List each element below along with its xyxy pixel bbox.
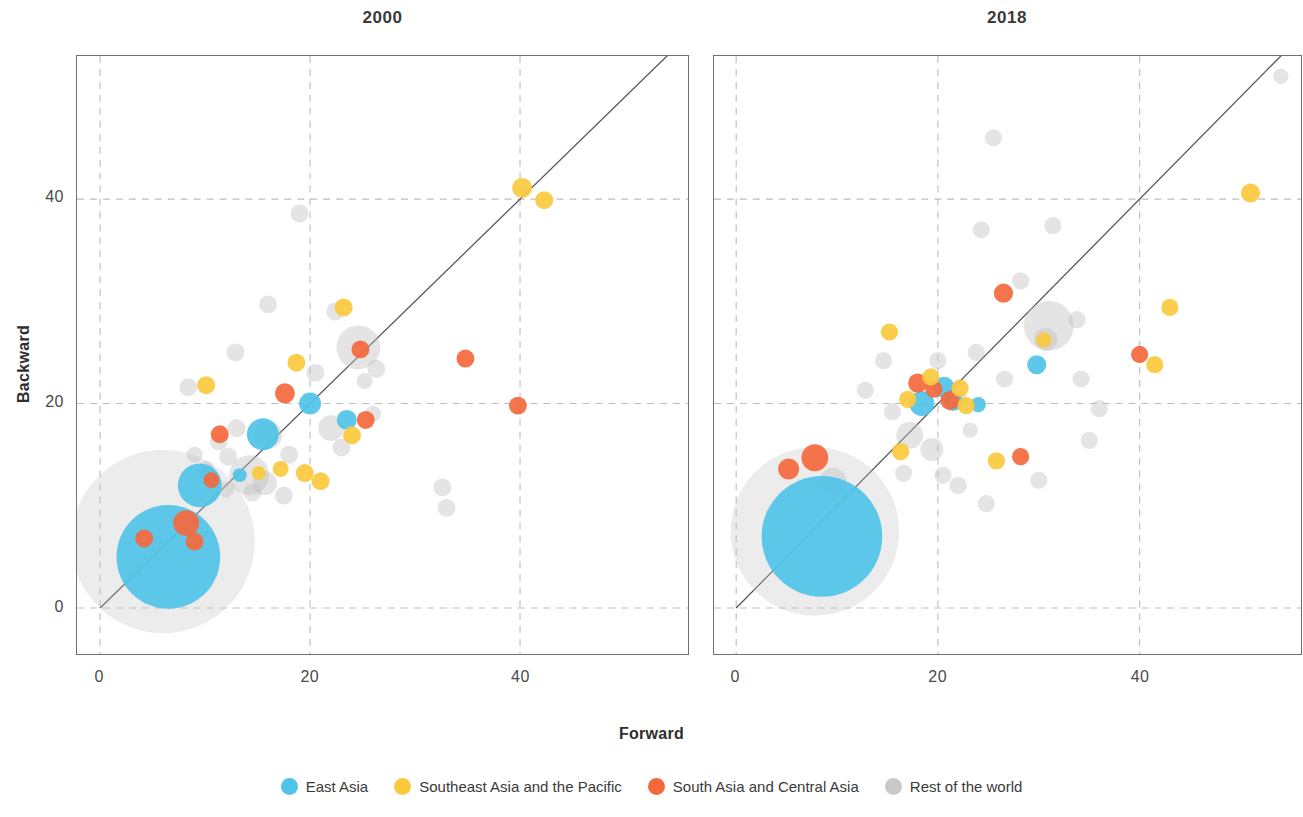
data-point[interactable] [978,495,995,512]
legend-label: East Asia [306,778,369,795]
data-point[interactable] [778,458,799,479]
data-point[interactable] [857,382,874,399]
legend-item[interactable]: South Asia and Central Asia [648,778,859,795]
data-point[interactable] [306,364,324,382]
data-point[interactable] [1027,355,1046,374]
legend-item[interactable]: Rest of the world [885,778,1023,795]
data-point[interactable] [895,464,912,481]
data-point[interactable] [1012,448,1029,465]
data-point[interactable] [275,383,295,403]
data-point[interactable] [963,422,978,437]
data-point[interactable] [875,352,892,369]
legend-item[interactable]: East Asia [281,778,369,795]
data-point[interactable] [187,447,203,463]
x-tick-label: 0 [79,668,119,686]
data-point[interactable] [899,391,916,408]
data-point[interactable] [433,478,451,496]
data-point[interactable] [1081,432,1098,449]
data-point[interactable] [247,418,279,450]
data-point[interactable] [1146,356,1163,373]
y-tick-label: 0 [24,598,64,616]
plot-area-2018 [714,56,1301,654]
data-point[interactable] [922,368,939,385]
data-point[interactable] [299,393,321,415]
data-point[interactable] [357,411,375,429]
data-point[interactable] [135,530,153,548]
data-point[interactable] [456,350,474,368]
data-point[interactable] [291,204,309,222]
data-point[interactable] [227,343,245,361]
data-point[interactable] [280,446,298,464]
data-point[interactable] [973,221,990,238]
data-point[interactable] [1068,311,1085,328]
data-point[interactable] [233,468,247,482]
data-point[interactable] [968,344,985,361]
x-tick-label: 40 [500,668,540,686]
data-point[interactable] [1030,472,1047,489]
data-point[interactable] [934,466,951,483]
data-point[interactable] [438,499,456,517]
data-point[interactable] [892,443,909,460]
panel-title-2018: 2018 [712,8,1302,28]
legend-label: Southeast Asia and the Pacific [419,778,622,795]
data-point[interactable] [884,403,901,420]
data-point[interactable] [203,472,219,488]
data-point[interactable] [252,466,266,480]
data-point[interactable] [996,370,1013,387]
plot-canvas-2000 [77,56,688,654]
data-point[interactable] [179,378,197,396]
x-tick-label: 0 [715,668,755,686]
data-point[interactable] [762,476,883,597]
data-point[interactable] [801,444,828,471]
data-point[interactable] [958,397,975,414]
data-point[interactable] [1073,370,1090,387]
data-point[interactable] [951,380,968,397]
scatter-panel-2000 [76,55,689,655]
data-point[interactable] [920,438,943,461]
data-point[interactable] [357,373,373,389]
data-point[interactable] [1091,400,1108,417]
data-point[interactable] [367,360,385,378]
data-point[interactable] [1131,346,1148,363]
data-point[interactable] [1273,69,1288,84]
y-tick-label: 40 [24,188,64,206]
data-point[interactable] [1036,333,1051,348]
data-point[interactable] [535,191,553,209]
data-point[interactable] [881,323,898,340]
data-point[interactable] [287,354,305,372]
data-point[interactable] [186,533,204,551]
x-tick-label: 40 [1120,668,1160,686]
data-point[interactable] [275,487,293,505]
data-point[interactable] [1044,217,1061,234]
data-point[interactable] [1161,299,1178,316]
data-point[interactable] [512,178,532,198]
x-tick-label: 20 [290,668,330,686]
legend-item[interactable]: Southeast Asia and the Pacific [394,778,622,795]
data-point[interactable] [197,376,215,394]
chart-figure: 2000 2018 020400204002040 Backward Forwa… [0,0,1303,817]
data-point[interactable] [351,340,369,358]
data-point[interactable] [994,284,1013,303]
data-point[interactable] [296,464,314,482]
data-point[interactable] [243,484,261,502]
data-point[interactable] [1241,183,1260,202]
data-point[interactable] [173,510,199,536]
data-point[interactable] [117,505,221,609]
data-point[interactable] [259,295,277,313]
data-point[interactable] [985,129,1002,146]
data-point[interactable] [273,461,289,477]
data-point[interactable] [949,477,966,494]
data-point[interactable] [988,452,1005,469]
legend-swatch-icon [648,778,665,795]
data-point[interactable] [929,352,946,369]
data-point[interactable] [335,298,353,316]
data-point[interactable] [219,448,237,466]
data-point[interactable] [1012,272,1029,289]
legend-swatch-icon [885,778,902,795]
data-point[interactable] [343,426,361,444]
data-point[interactable] [228,419,246,437]
data-point[interactable] [312,472,330,490]
data-point[interactable] [509,397,527,415]
series-highlighted-regions [762,183,1261,596]
data-point[interactable] [211,425,229,443]
